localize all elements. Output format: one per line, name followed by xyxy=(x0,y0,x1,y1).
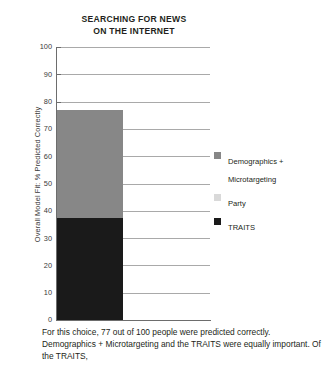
y-axis-tick xyxy=(57,320,61,321)
chart-title-line-1: SEARCHING FOR NEWS xyxy=(48,14,220,26)
y-axis-tick-label: 100 xyxy=(26,42,52,51)
chart-title-line-2: ON THE INTERNET xyxy=(48,26,220,38)
y-axis-tick-label: 10 xyxy=(26,288,52,297)
gridline xyxy=(57,74,210,75)
plot-area xyxy=(57,47,210,320)
y-axis-tick-label: 0 xyxy=(26,315,52,324)
legend-item: TRAITS xyxy=(214,216,325,234)
y-axis-tick xyxy=(57,47,61,48)
y-axis-tick-label: 50 xyxy=(26,179,52,188)
y-axis-tick xyxy=(57,102,61,103)
gridline xyxy=(57,102,210,103)
y-axis-tick-label: 80 xyxy=(26,97,52,106)
legend-swatch-icon xyxy=(214,218,221,225)
chart-title: SEARCHING FOR NEWS ON THE INTERNET xyxy=(48,14,220,38)
y-axis-tick-label: 40 xyxy=(26,206,52,215)
chart-caption: For this choice, 77 out of 100 people we… xyxy=(42,326,322,363)
gridline xyxy=(57,47,210,48)
y-axis-tick-label: 20 xyxy=(26,261,52,270)
y-axis-tick-label: 30 xyxy=(26,234,52,243)
legend-item: Demographics + Microtargeting xyxy=(214,150,325,186)
legend-item-label: Party xyxy=(228,199,246,208)
y-axis-tick xyxy=(57,74,61,75)
y-axis-tick-label: 60 xyxy=(26,152,52,161)
legend-item: Party xyxy=(214,192,325,210)
y-axis-tick-labels: 1009080706050403020100 xyxy=(24,47,52,320)
bar-segment xyxy=(57,110,123,218)
y-axis-tick-label: 90 xyxy=(26,70,52,79)
y-axis-tick-label: 70 xyxy=(26,124,52,133)
legend-swatch-icon xyxy=(214,194,221,201)
legend-item-label: TRAITS xyxy=(228,223,255,232)
x-axis-line xyxy=(56,320,211,321)
chart-page: SEARCHING FOR NEWS ON THE INTERNET Overa… xyxy=(0,0,325,374)
legend-swatch-icon xyxy=(214,152,221,159)
bar-segment xyxy=(57,218,123,320)
chart-legend: Demographics + MicrotargetingPartyTRAITS xyxy=(214,150,325,240)
legend-item-label: Demographics + Microtargeting xyxy=(228,157,284,184)
